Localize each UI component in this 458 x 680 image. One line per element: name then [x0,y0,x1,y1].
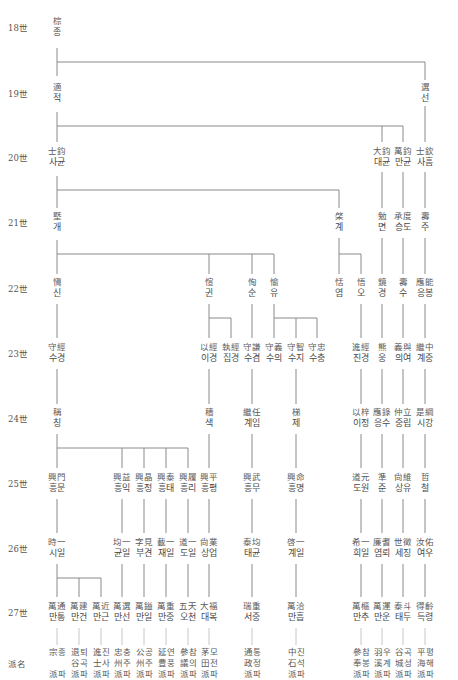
person-hangul-name: 의여 [394,353,412,364]
branch-name: 谷곡城성派파 [395,647,412,680]
person-node: 穡색 [205,407,214,429]
branch-name-line: 派파 [114,669,131,680]
person-node: 大鈞대균 [373,146,391,168]
person-hanja-name: 道元 [352,472,370,483]
person-hangul-name: 만흡 [287,612,305,623]
person-node: 稱칭 [53,407,62,429]
person-hangul-name: 순 [248,288,257,299]
branch-name: 公공州주派파 [136,647,153,680]
person-hangul-name: 주 [421,222,430,233]
person-hanja-name: 瑞重 [243,601,261,612]
person-hanja-name: 尙業 [200,537,218,548]
branch-name-line: 派파 [288,669,305,680]
person-hangul-name: 이경 [200,353,218,364]
person-node: 興履흥리 [179,472,197,494]
person-node: 守經수경 [48,342,66,364]
person-hanja-name: 進經 [352,342,370,353]
person-hangul-name: 귄 [205,288,214,299]
person-node: 壽주 [421,211,430,233]
branch-name-line: 派파 [374,669,391,680]
person-hangul-name: 흥정 [135,483,153,494]
person-hanja-name: 萬運 [373,601,391,612]
person-hanja-name: 是綱 [416,407,434,418]
person-hanja-name: 守經 [48,342,66,353]
person-hangul-name: 제 [292,418,301,429]
person-hanja-name: 興履 [179,472,197,483]
person-hangul-name: 오 [357,288,366,299]
person-hangul-name: 종 [53,27,62,38]
branch-name-line: 派파 [136,669,153,680]
person-node: 士鈞사균 [48,146,66,168]
branch-name-line: 派파 [49,669,66,680]
generation-label: 27世 [8,606,28,618]
person-hangul-name: 흥리 [179,483,197,494]
person-hangul-name: 철 [421,483,430,494]
person-hanja-name: 泰斗 [394,601,412,612]
branch-name: 參참奉봉派파 [353,647,370,680]
person-hangul-name: 면 [378,222,387,233]
person-hanja-name: 守謙 [243,342,261,353]
person-hangul-name: 진경 [352,353,370,364]
branch-name: 茅모田전派파 [201,647,218,680]
generation-label: 26世 [8,542,28,554]
person-hanja-name: 適 [53,82,62,93]
person-hanja-name: 守義 [265,342,283,353]
person-hangul-name: 계 [335,222,344,233]
branch-name-line: 通통 [244,647,261,658]
person-hangul-name: 만운 [373,612,391,623]
branch-name: 羽우溪계派파 [374,647,391,680]
person-node: 是綱시강 [416,407,434,429]
person-hangul-name: 대균 [373,157,391,168]
branch-name-line: 政정 [244,658,261,669]
person-hanja-name: 士欽 [416,146,434,157]
person-hanja-name: 壽 [421,211,430,222]
person-hanja-name: 勉 [378,211,387,222]
person-node: 棕종 [53,16,62,38]
person-node: 守義수의 [265,342,283,364]
branch-name-line: 士사 [93,658,110,669]
person-node: 梯제 [292,407,301,429]
person-hangul-name: 수 [399,288,408,299]
person-hangul-name: 수경 [48,353,66,364]
person-hangul-name: 사균 [48,157,66,168]
person-hanja-name: 汝佑 [416,537,434,548]
branch-name-line: 州주 [114,658,131,669]
branch-name: 平평海해派파 [417,647,434,680]
person-hanja-name: 熊 [378,342,387,353]
branch-name-line: 田전 [201,658,218,669]
person-hanja-name: 仲立 [394,407,412,418]
person-node: 勉면 [378,211,387,233]
person-hangul-name: 서중 [243,612,261,623]
branch-name-line: 平평 [417,647,434,658]
person-node: 均一균일 [113,537,131,559]
person-hanja-name: 時一 [48,537,66,548]
person-hangul-name: 만중 [157,612,175,623]
person-hanja-name: 哲 [421,472,430,483]
branch-name-line: 城성 [395,658,412,669]
person-node: 應能응봉 [416,277,434,299]
person-hanja-name: 鏡 [378,277,387,288]
generation-label: 22世 [8,282,28,294]
person-hanja-name: 承度 [394,211,412,222]
person-node: 壽수 [399,277,408,299]
branch-name: 退퇴谷곡派파 [71,647,88,680]
person-node: 載一재일 [157,537,175,559]
branch-name-line: 延연 [158,647,175,658]
branch-name-line: 豊풍 [158,658,175,669]
person-node: 得齡득령 [416,601,434,623]
person-hangul-name: 응봉 [416,288,434,299]
person-node: 棨계 [335,211,344,233]
branch-name-line: 退퇴 [71,647,88,658]
person-hangul-name: 만추 [352,612,370,623]
person-hangul-name: 수의 [265,353,283,364]
person-node: 興泰흥태 [157,472,175,494]
person-hanja-name: 守忠 [308,342,326,353]
person-hanja-name: 萬重 [157,601,175,612]
person-hangul-name: 신 [53,288,62,299]
person-hangul-name: 칭 [53,418,62,429]
person-node: 世徵세징 [394,537,412,559]
person-node: 士欽사흠 [416,146,434,168]
person-node: 以梓이정 [352,407,370,429]
person-hanja-name: 泰均 [243,537,261,548]
person-hangul-name: 이정 [352,418,370,429]
